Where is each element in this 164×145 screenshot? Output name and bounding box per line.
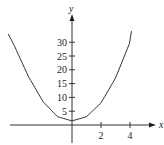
x-axis-label: x xyxy=(158,119,164,130)
x-axis-arrow-icon xyxy=(149,123,156,128)
y-tick-label: 5 xyxy=(62,106,67,117)
y-tick-label: 20 xyxy=(57,64,67,75)
x-tick-label: 2 xyxy=(99,130,104,141)
y-tick-label: 30 xyxy=(57,37,67,48)
parabola-curve xyxy=(8,31,131,121)
y-tick-label: 15 xyxy=(57,78,67,89)
y-axis-arrow-icon xyxy=(70,14,75,21)
chart-svg: xy 2451015202530 xyxy=(0,0,164,145)
axes: xy xyxy=(10,3,164,143)
y-axis-label: y xyxy=(68,3,74,14)
x-tick-label: 4 xyxy=(128,130,133,141)
parabola-chart: xy 2451015202530 xyxy=(0,0,164,145)
y-tick-label: 10 xyxy=(57,92,67,103)
y-tick-label: 25 xyxy=(57,51,67,62)
